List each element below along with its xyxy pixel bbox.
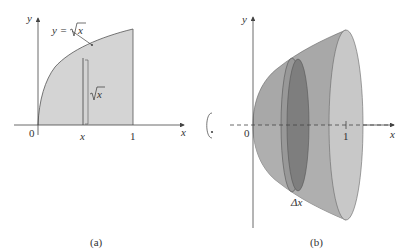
rotation-arrowhead-icon (211, 131, 213, 133)
rotation-arrow-icon (207, 113, 212, 138)
origin-label-b: 0 (244, 127, 250, 139)
y-axis-label-b: y (241, 13, 247, 25)
x-axis-label: x (180, 126, 186, 138)
diagram-canvas: y x 0 x 1 y = x x (a) y x 0 (0, 0, 402, 251)
panel-a: y x 0 x 1 y = x x (a) (14, 12, 186, 249)
caption-b: (b) (310, 236, 323, 249)
tick-one-label-b: 1 (343, 130, 349, 142)
curve-label: y = (51, 24, 67, 36)
pointer-head-icon (91, 44, 93, 46)
disk-face (287, 59, 309, 191)
strip-height-label: x (96, 88, 102, 100)
x-axis-label-b: x (389, 128, 395, 140)
tick-x-label: x (79, 130, 85, 142)
origin-label: 0 (29, 127, 35, 139)
shaded-region (38, 29, 133, 125)
tick-one-label: 1 (130, 130, 136, 142)
caption-a: (a) (90, 236, 103, 249)
y-axis-label: y (26, 12, 32, 24)
curve-label-radicand: x (77, 24, 83, 36)
panel-b: y x 0 1 Δx (b) (207, 13, 395, 249)
delta-x-label: Δx (290, 196, 302, 208)
